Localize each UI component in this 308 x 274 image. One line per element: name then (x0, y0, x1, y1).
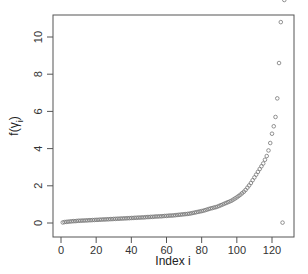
data-point (275, 97, 279, 101)
x-tick-label: 100 (228, 244, 246, 256)
y-tick-label: 0 (32, 220, 44, 226)
data-point (274, 115, 278, 119)
data-point (279, 20, 283, 24)
data-point (267, 149, 271, 153)
data-point (268, 141, 272, 145)
data-point (281, 221, 285, 225)
y-tick-label: 8 (32, 71, 44, 77)
data-point (265, 154, 269, 158)
y-axis-title: f(γi) (7, 116, 25, 135)
data-points (61, 0, 286, 224)
y-tick-label: 10 (32, 31, 44, 43)
data-point (283, 0, 287, 2)
y-tick-label: 6 (32, 108, 44, 114)
data-point (270, 132, 274, 136)
data-point (272, 124, 276, 128)
x-tick-label: 120 (263, 244, 281, 256)
plot-frame (53, 15, 294, 237)
data-point (261, 162, 265, 166)
y-tick-label: 4 (32, 146, 44, 152)
x-tick-label: 20 (90, 244, 102, 256)
data-point (263, 158, 267, 162)
x-tick-label: 80 (196, 244, 208, 256)
y-tick-label: 2 (32, 183, 44, 189)
y-axis: 0246810 (32, 31, 53, 226)
data-point (277, 61, 281, 65)
scatter-chart: 0246810 020406080100120 Index i f(γi) (0, 0, 308, 274)
x-axis-title: Index i (155, 254, 190, 268)
x-tick-label: 40 (125, 244, 137, 256)
x-tick-label: 0 (58, 244, 64, 256)
